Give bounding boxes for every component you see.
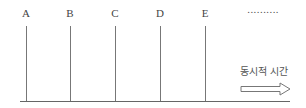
continuation-dots: .......... bbox=[247, 4, 279, 15]
line-c bbox=[115, 26, 116, 101]
label-b: B bbox=[60, 7, 80, 19]
caption-simultaneous-time: 동시적 시간 bbox=[240, 63, 288, 78]
line-b bbox=[70, 26, 71, 101]
line-d bbox=[160, 26, 161, 101]
line-e bbox=[205, 26, 206, 101]
line-a bbox=[26, 26, 27, 101]
baseline bbox=[20, 101, 290, 102]
label-e: E bbox=[195, 7, 215, 19]
label-d: D bbox=[150, 7, 170, 19]
right-hollow-arrow-icon bbox=[240, 82, 292, 96]
label-a: A bbox=[16, 7, 36, 19]
label-c: C bbox=[105, 7, 125, 19]
